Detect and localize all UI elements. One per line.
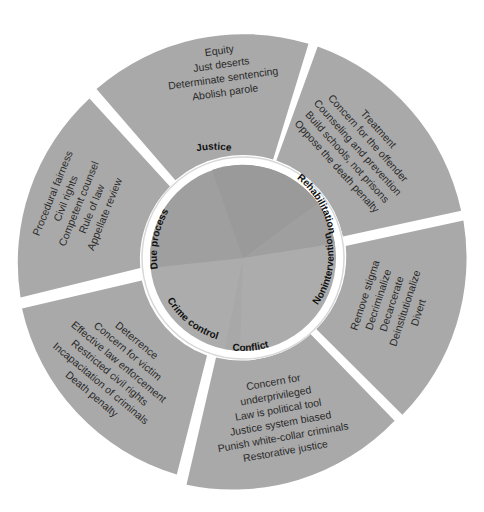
criminal-justice-perspectives-wheel: Justice Rehabilitation Nonintervention C… — [0, 0, 484, 512]
core-disc — [150, 165, 336, 351]
core-label-justice: Justice — [195, 141, 233, 154]
